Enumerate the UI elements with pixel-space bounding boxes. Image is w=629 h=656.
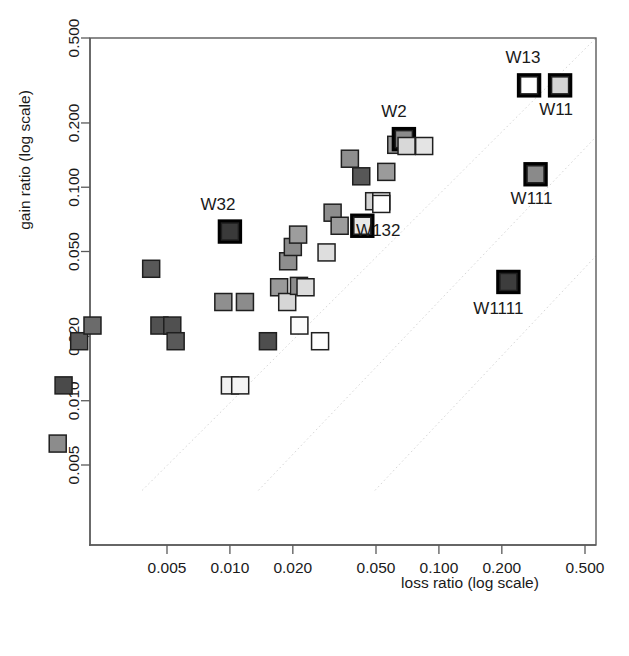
marker-square (232, 377, 249, 394)
reference-diagonal-0 (142, 38, 596, 490)
data-point-18 (290, 226, 307, 243)
marker-square (55, 377, 72, 394)
y-axis: 0.0050.0100.0200.0500.1000.2000.500 (65, 18, 90, 546)
data-point-1 (55, 377, 72, 394)
x-tick-label-3: 0.050 (357, 559, 396, 576)
marker-square (318, 244, 335, 261)
data-point-12 (236, 294, 253, 311)
marker-square (279, 294, 296, 311)
marker-square (312, 333, 329, 350)
marker-square (236, 294, 253, 311)
marker-square (221, 223, 238, 240)
data-point-W13 (519, 75, 539, 95)
data-point-22 (312, 333, 329, 350)
data-point-6 (164, 317, 181, 334)
marker-square (373, 195, 390, 212)
marker-square (527, 166, 544, 183)
data-point-25 (331, 217, 348, 234)
data-point-0 (49, 435, 66, 452)
annotation-W32: W32 (200, 195, 235, 214)
data-point-3 (84, 317, 101, 334)
marker-square (353, 168, 370, 185)
marker-square (84, 317, 101, 334)
y-tick-label-4: 0.100 (65, 167, 82, 206)
x-tick-label-1: 0.010 (211, 559, 250, 576)
reference-lines (142, 38, 596, 490)
x-tick-label-2: 0.020 (273, 559, 312, 576)
data-point-2 (71, 333, 88, 350)
marker-square (71, 333, 88, 350)
data-point-W111 (525, 164, 545, 184)
marker-square (49, 435, 66, 452)
annotation-W111: W111 (511, 189, 553, 208)
data-point-W11 (550, 75, 570, 95)
marker-square (290, 226, 307, 243)
y-tick-label-5: 0.200 (65, 103, 82, 142)
data-point-33 (378, 163, 395, 180)
data-point-26 (341, 150, 358, 167)
data-point-W1111 (498, 272, 518, 292)
marker-square (500, 273, 517, 290)
annotation-W132: W132 (356, 221, 400, 240)
annotation-W11: W11 (539, 100, 573, 119)
data-point-15 (279, 294, 296, 311)
marker-square (398, 137, 415, 154)
data-point-9 (232, 377, 249, 394)
annotation-W1111: W1111 (473, 299, 523, 318)
x-tick-label-0: 0.005 (148, 559, 187, 576)
data-point-11 (215, 294, 232, 311)
data-point-23 (318, 244, 335, 261)
marker-square (416, 137, 433, 154)
y-tick-label-0: 0.005 (65, 446, 82, 485)
data-point-37 (416, 137, 433, 154)
data-point-13 (259, 333, 276, 350)
data-point-W32 (220, 221, 240, 241)
marker-square (164, 317, 181, 334)
marker-square (521, 77, 538, 94)
marker-square (378, 163, 395, 180)
y-axis-title: gain ratio (log scale) (16, 90, 33, 230)
marker-square (143, 260, 160, 277)
marker-square (259, 333, 276, 350)
annotation-W2: W2 (381, 102, 407, 121)
scatter-plot-figure: 0.0050.0100.0200.0500.1000.2000.500 0.00… (0, 0, 629, 656)
annotation-W13: W13 (506, 48, 541, 67)
data-point-29 (353, 168, 370, 185)
marker-square (297, 279, 314, 296)
reference-diagonal-2 (375, 256, 596, 491)
marker-square (167, 333, 184, 350)
marker-square (331, 217, 348, 234)
data-points (49, 75, 570, 452)
x-tick-label-6: 0.500 (566, 559, 605, 576)
data-point-32 (373, 195, 390, 212)
data-point-21 (291, 317, 308, 334)
data-point-7 (167, 333, 184, 350)
marker-square (552, 77, 569, 94)
data-point-36 (398, 137, 415, 154)
plot-canvas: 0.0050.0100.0200.0500.1000.2000.500 0.00… (0, 0, 629, 656)
y-tick-label-6: 0.500 (65, 18, 82, 57)
marker-square (341, 150, 358, 167)
marker-square (215, 294, 232, 311)
data-point-4 (143, 260, 160, 277)
marker-square (291, 317, 308, 334)
x-axis-title: loss ratio (log scale) (401, 574, 539, 591)
data-point-20 (297, 279, 314, 296)
y-tick-label-3: 0.050 (65, 232, 82, 271)
x-axis: 0.0050.0100.0200.0500.1000.2000.500 (89, 545, 605, 576)
